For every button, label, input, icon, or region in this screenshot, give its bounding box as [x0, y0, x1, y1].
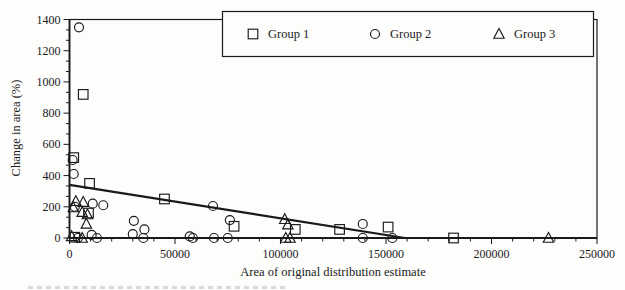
legend-label-group2: Group 2 [390, 27, 431, 41]
figure-canvas: 0500001000001500002000002500000200400600… [0, 0, 625, 290]
data-point-series2 [358, 219, 367, 228]
x-tick-label: 150000 [368, 247, 404, 261]
data-point-series2 [129, 216, 138, 225]
legend-label-group3: Group 3 [514, 27, 555, 41]
data-point-series2 [99, 201, 108, 210]
y-tick-label: 1000 [37, 75, 61, 89]
y-tick-label: 400 [43, 169, 61, 183]
x-tick-label: 0 [67, 247, 73, 261]
y-tick-label: 600 [43, 137, 61, 151]
data-point-series1 [229, 221, 239, 231]
data-point-series2 [69, 170, 78, 179]
data-point-series2 [88, 199, 97, 208]
data-point-series2 [225, 216, 234, 225]
data-point-series3 [78, 197, 88, 207]
cropped-caption-strip [28, 286, 288, 289]
legend-label-group1: Group 1 [268, 27, 309, 41]
x-tick-label: 250000 [579, 247, 615, 261]
y-tick-label: 0 [55, 231, 61, 245]
x-axis-title: Area of original distribution estimate [240, 265, 426, 279]
x-tick-label: 200000 [474, 247, 510, 261]
y-tick-label: 800 [43, 106, 61, 120]
data-point-series3 [81, 218, 91, 228]
data-point-series2 [140, 225, 149, 234]
x-tick-label: 50000 [160, 247, 190, 261]
data-point-series1 [78, 90, 88, 100]
y-tick-label: 1200 [37, 44, 61, 58]
plot-area: 0500001000001500002000002500000200400600… [37, 12, 616, 262]
scatter-chart: 0500001000001500002000002500000200400600… [0, 0, 625, 290]
trend-line [70, 185, 405, 238]
y-tick-label: 200 [43, 200, 61, 214]
data-point-series2 [74, 23, 83, 32]
x-tick-label: 100000 [263, 247, 299, 261]
data-point-series1 [383, 222, 393, 232]
y-axis-title: Change in area (%) [9, 80, 23, 177]
y-tick-label: 1400 [37, 13, 61, 27]
data-point-series2 [208, 202, 217, 211]
